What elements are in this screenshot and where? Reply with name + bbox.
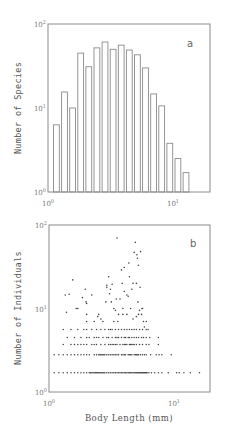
data-point — [183, 372, 185, 374]
data-point — [108, 276, 110, 278]
data-point — [113, 321, 115, 323]
data-point — [116, 344, 118, 346]
data-point — [121, 269, 123, 271]
data-point — [86, 354, 88, 356]
data-point — [125, 354, 127, 356]
data-point — [124, 372, 126, 374]
data-point — [133, 344, 135, 346]
data-point — [133, 337, 135, 339]
data-point — [70, 354, 72, 356]
data-point — [130, 308, 132, 310]
histogram-bar — [78, 53, 84, 192]
data-point — [108, 372, 110, 374]
histogram-bar — [54, 125, 60, 192]
data-point — [168, 372, 170, 374]
data-point — [75, 308, 77, 310]
data-point — [137, 257, 139, 259]
data-point — [158, 337, 160, 339]
data-point — [77, 329, 79, 331]
data-point — [91, 344, 93, 346]
data-point — [86, 337, 88, 339]
data-point — [118, 329, 120, 331]
data-point — [83, 354, 85, 356]
data-point — [105, 301, 107, 303]
data-point — [118, 337, 120, 339]
data-point — [74, 337, 76, 339]
data-point — [122, 344, 124, 346]
data-point — [106, 284, 108, 286]
data-point — [93, 344, 95, 346]
data-point — [111, 329, 113, 331]
data-point — [139, 329, 141, 331]
histogram-bar — [126, 50, 132, 192]
data-point — [68, 293, 70, 295]
data-point — [117, 321, 119, 323]
histogram-bar — [143, 68, 149, 192]
y-tick-label: 101 — [34, 103, 46, 113]
y-tick-labels-b: 100101102 — [35, 220, 47, 397]
data-point — [125, 337, 127, 339]
data-point — [141, 314, 143, 316]
data-point — [80, 372, 82, 374]
data-point — [91, 329, 93, 331]
data-point — [113, 354, 115, 356]
data-point — [176, 372, 178, 374]
panel-label-a: a — [187, 38, 193, 49]
data-point — [154, 372, 156, 374]
data-point — [139, 344, 141, 346]
data-point — [106, 372, 108, 374]
data-point — [190, 372, 192, 374]
data-point — [104, 372, 106, 374]
data-point — [142, 308, 144, 310]
data-point — [134, 242, 136, 244]
data-point — [116, 372, 118, 374]
data-point — [86, 314, 88, 316]
data-point — [100, 329, 102, 331]
data-point — [96, 354, 98, 356]
scatter-panel-b: b Number of Individuals Body Length (mm)… — [13, 220, 210, 423]
data-point — [131, 354, 133, 356]
data-point — [89, 337, 91, 339]
y-tick-label: 102 — [35, 220, 47, 230]
data-point — [83, 329, 85, 331]
data-point — [126, 329, 128, 331]
data-point — [113, 308, 115, 310]
data-point — [115, 337, 117, 339]
data-point — [98, 337, 100, 339]
data-point — [86, 329, 88, 331]
x-tick-labels-b: 100101 — [43, 398, 180, 408]
data-point — [129, 276, 131, 278]
data-point — [121, 372, 123, 374]
data-point — [123, 267, 125, 269]
data-point — [97, 316, 99, 318]
histogram-bar — [175, 159, 181, 192]
data-point — [82, 297, 84, 299]
data-point — [146, 329, 148, 331]
x-tick-labels-a: 100101 — [42, 198, 179, 208]
data-point — [136, 337, 138, 339]
data-point — [91, 294, 93, 296]
data-point — [70, 372, 72, 374]
data-point — [115, 298, 117, 300]
data-point — [93, 337, 95, 339]
data-point — [96, 344, 98, 346]
y-tick-label: 101 — [35, 304, 47, 314]
data-point — [80, 344, 82, 346]
histogram-bar — [110, 49, 116, 192]
data-point — [158, 372, 160, 374]
data-point — [106, 354, 108, 356]
data-point — [58, 354, 60, 356]
data-point — [138, 314, 140, 316]
data-point — [129, 329, 131, 331]
data-point — [140, 251, 142, 253]
data-point — [74, 344, 76, 346]
data-point — [142, 344, 144, 346]
data-point — [138, 354, 140, 356]
histogram-bar — [167, 143, 173, 192]
y-tick-label: 100 — [34, 187, 46, 197]
data-point — [124, 337, 126, 339]
data-point — [110, 344, 112, 346]
data-point — [142, 329, 144, 331]
data-point — [138, 264, 140, 266]
histogram-bars — [54, 42, 189, 192]
